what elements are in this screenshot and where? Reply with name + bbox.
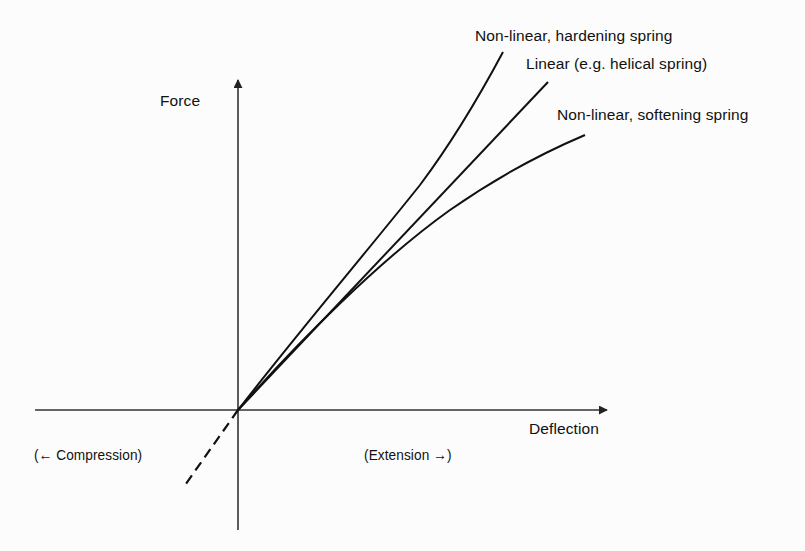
extension-annotation: (Extension →)	[364, 446, 452, 464]
curve-linear-compression-dashed	[183, 410, 238, 488]
label-hardening-spring: Non-linear, hardening spring	[475, 27, 673, 45]
label-linear-spring: Linear (e.g. helical spring)	[526, 55, 707, 73]
curve-softening-spring	[238, 135, 585, 410]
spring-characteristics-figure: Force Deflection (← Compression) (Extens…	[0, 0, 805, 551]
compression-annotation: (← Compression)	[34, 446, 142, 464]
force-deflection-plot	[0, 0, 805, 551]
y-axis-label: Force	[160, 92, 200, 110]
label-softening-spring: Non-linear, softening spring	[557, 106, 749, 124]
x-axis-label: Deflection	[529, 420, 599, 438]
curve-linear-spring	[238, 82, 548, 410]
curve-hardening-spring	[238, 52, 503, 410]
